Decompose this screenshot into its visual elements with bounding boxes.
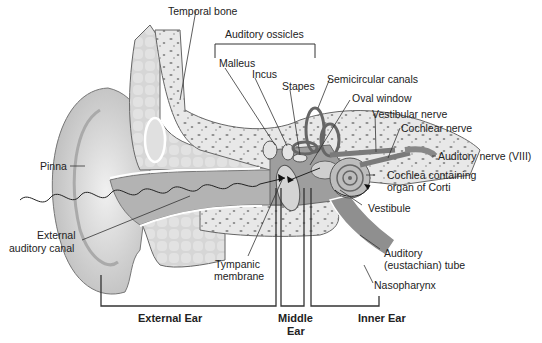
label-vestibule: Vestibule bbox=[368, 202, 411, 214]
label-eustachian-line1: Auditory bbox=[384, 247, 423, 259]
label-cochlea-line2: organ of Corti bbox=[387, 181, 451, 193]
label-vestibular-nerve: Vestibular nerve bbox=[372, 108, 447, 120]
section-external-ear: External Ear bbox=[138, 312, 202, 325]
label-external-canal-line1: External bbox=[37, 229, 76, 241]
label-oval-window: Oval window bbox=[352, 92, 412, 104]
label-tympanic-line2: membrane bbox=[214, 270, 264, 282]
section-middle-ear-line1: Middle bbox=[278, 312, 313, 325]
section-inner-ear: Inner Ear bbox=[358, 312, 406, 325]
label-nasopharynx: Nasopharynx bbox=[374, 279, 436, 291]
label-tympanic-line1: Tympanic bbox=[215, 258, 260, 270]
malleus bbox=[263, 141, 277, 159]
label-auditory-nerve: Auditory nerve (VIII) bbox=[438, 150, 531, 162]
label-external-canal-line2: auditory canal bbox=[9, 242, 74, 254]
label-semicircular-canals: Semicircular canals bbox=[327, 73, 418, 85]
label-pinna: Pinna bbox=[40, 160, 67, 172]
label-eustachian-line2: (eustachian) tube bbox=[384, 259, 465, 271]
ossicles-bracket bbox=[215, 44, 315, 58]
label-temporal-bone: Temporal bone bbox=[168, 5, 237, 17]
label-malleus: Malleus bbox=[219, 57, 255, 69]
label-auditory-ossicles: Auditory ossicles bbox=[225, 28, 304, 40]
label-cochlea-line1: Cochlea containing bbox=[387, 169, 476, 181]
section-middle-ear-line2: Ear bbox=[287, 325, 305, 338]
concha-fold bbox=[145, 118, 165, 162]
label-incus: Incus bbox=[252, 68, 277, 80]
label-stapes: Stapes bbox=[282, 80, 315, 92]
label-cochlear-nerve: Cochlear nerve bbox=[401, 122, 472, 134]
